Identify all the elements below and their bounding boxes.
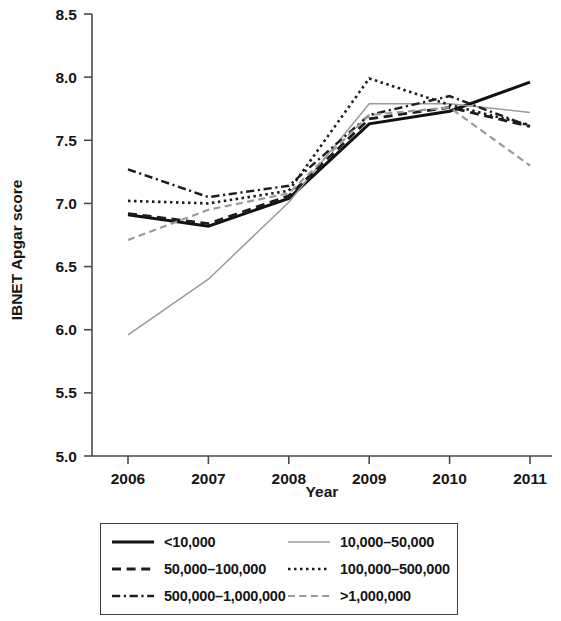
legend-label: 50,000–100,000 — [164, 561, 266, 577]
y-tick-label: 7.5 — [55, 132, 77, 149]
y-tick-label: 5.5 — [55, 384, 77, 401]
thin-gray-line-swatch — [287, 535, 331, 549]
dash-dot-line-swatch — [111, 589, 155, 603]
legend-item: <10,000 — [101, 528, 277, 555]
y-axis-ticks — [84, 14, 92, 456]
series-line — [128, 78, 530, 203]
x-tick-label: 2011 — [513, 470, 547, 487]
x-tick-label: 2008 — [272, 470, 307, 487]
y-tick-label: 5.0 — [55, 448, 77, 465]
legend-label: 100,000–500,000 — [340, 561, 450, 577]
figure-container: 5.05.56.06.57.07.58.08.5 200620072008200… — [0, 0, 561, 621]
chart-plot-area: 5.05.56.06.57.07.58.08.5 200620072008200… — [0, 0, 561, 505]
x-tick-label: 2010 — [432, 470, 466, 487]
legend-label: 10,000–50,000 — [340, 534, 434, 550]
legend-item: 500,000–1,000,000 — [101, 583, 277, 610]
chart-legend: <10,00010,000–50,00050,000–100,000100,00… — [100, 523, 458, 615]
y-tick-label: 8.5 — [55, 6, 77, 23]
dashed-line-swatch — [111, 562, 155, 576]
x-tick-label: 2006 — [111, 470, 146, 487]
series-line — [128, 107, 530, 223]
legend-label: >1,000,000 — [340, 588, 411, 604]
legend-item: 10,000–50,000 — [277, 528, 459, 555]
legend-item: >1,000,000 — [277, 583, 459, 610]
legend-label: 500,000–1,000,000 — [164, 588, 286, 604]
legend-item: 100,000–500,000 — [277, 555, 459, 582]
legend-label: <10,000 — [164, 534, 215, 550]
legend-item: 50,000–100,000 — [101, 555, 277, 582]
legend-grid: <10,00010,000–50,00050,000–100,000100,00… — [101, 524, 457, 614]
x-tick-label: 2007 — [191, 470, 225, 487]
y-tick-label: 8.0 — [55, 69, 77, 86]
x-axis-title: Year — [306, 483, 339, 500]
series-line — [128, 104, 530, 335]
x-tick-label: 2009 — [352, 470, 387, 487]
series-group — [128, 78, 530, 334]
solid-line-swatch — [111, 535, 155, 549]
axes-group: 5.05.56.06.57.07.58.08.5 200620072008200… — [55, 6, 552, 488]
series-line — [128, 96, 530, 197]
gray-dashed-line-swatch — [287, 589, 331, 603]
y-tick-label: 7.0 — [55, 195, 77, 212]
y-tick-label: 6.5 — [55, 258, 77, 275]
line-chart: 5.05.56.06.57.07.58.08.5 200620072008200… — [0, 0, 561, 505]
y-axis-tick-labels: 5.05.56.06.57.07.58.08.5 — [55, 6, 77, 465]
y-axis-title: IBNET Apgar score — [8, 179, 25, 320]
dotted-line-swatch — [287, 562, 331, 576]
y-tick-label: 6.0 — [55, 321, 77, 338]
x-axis-ticks — [128, 456, 530, 464]
